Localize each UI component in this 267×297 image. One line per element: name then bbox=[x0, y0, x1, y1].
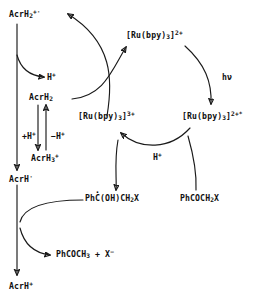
label-proton-released: H+ bbox=[47, 72, 56, 81]
label-ketyl-radical: PhC(OH)CH2X bbox=[85, 194, 139, 203]
label-ru-2plus-excited: [Ru(bpy)3]2+* bbox=[182, 111, 243, 121]
arrow-layer bbox=[0, 0, 267, 297]
arrow-excited-to-ru3plus bbox=[121, 128, 190, 145]
label-acrh3-cation: AcrH3+ bbox=[31, 153, 59, 163]
reaction-scheme-diagram: AcrH2+· H+ AcrH2 +H+ −H+ AcrH3+ AcrH· Ac… bbox=[0, 0, 267, 297]
arrow-acrh2-to-ru2plus bbox=[72, 47, 126, 99]
label-phenacyl-halide: PhCOCH2X bbox=[180, 194, 219, 203]
label-acrh-cation: AcrH+ bbox=[9, 281, 33, 290]
label-ru-2plus: [Ru(bpy)3]2+ bbox=[126, 30, 183, 40]
label-photon-hv: hν bbox=[222, 73, 232, 81]
label-acrh-radical: AcrH· bbox=[9, 174, 33, 183]
arrow-ketyl-into-acrh-line bbox=[20, 200, 83, 222]
arrow-branch-to-proton-1 bbox=[17, 55, 44, 77]
label-proton-consumed: H+ bbox=[153, 152, 162, 161]
label-acrh2: AcrH2 bbox=[29, 93, 53, 102]
arrow-ru2plus-to-excited bbox=[185, 46, 211, 104]
label-acetophenone-product: PhCOCH3 + X− bbox=[56, 249, 114, 259]
label-plus-proton: +H+ bbox=[22, 131, 36, 140]
label-ru-3plus: [Ru(bpy)3]3+ bbox=[78, 111, 135, 121]
arrow-phenacyl-into-cycle bbox=[188, 136, 196, 190]
label-acrh2-radical-cation: AcrH2+· bbox=[9, 9, 41, 19]
label-minus-proton: −H+ bbox=[51, 131, 65, 140]
arrow-ru3plus-cycle-to-acrh2rc bbox=[68, 14, 110, 116]
arrow-cycle-to-ketyl bbox=[116, 140, 118, 190]
arrow-acrh-line-to-acetophenone bbox=[20, 228, 50, 255]
